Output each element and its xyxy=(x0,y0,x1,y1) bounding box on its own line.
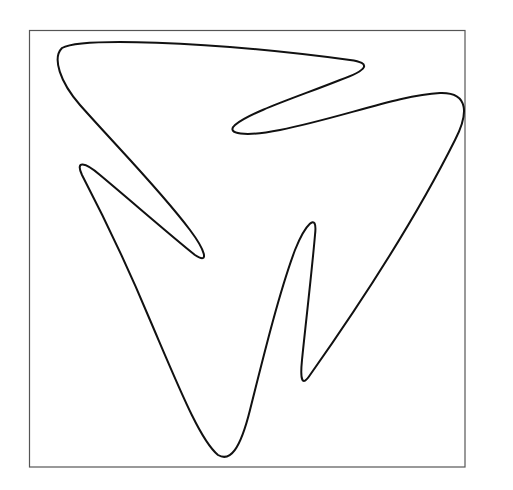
closed-curve-shape xyxy=(58,42,464,457)
figure-canvas xyxy=(0,0,513,490)
figure-frame xyxy=(30,31,466,468)
